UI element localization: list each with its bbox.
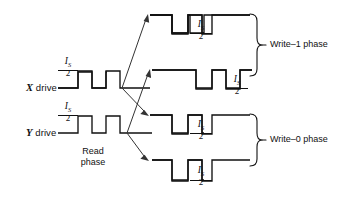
read-phase-line-1: Read xyxy=(72,146,114,157)
y-drive-label-text: drive xyxy=(33,127,57,138)
amplitude-denominator: 2 xyxy=(226,87,248,97)
write-1-phase-label: Write–1 phase xyxy=(270,40,328,49)
amplitude-denominator: 2 xyxy=(190,178,212,188)
brace-write-1 xyxy=(250,14,266,76)
write-0-phase-label: Write–0 phase xyxy=(270,135,328,144)
x-drive-label-text: drive xyxy=(33,82,57,93)
branch-arrow-x-to-write1-top xyxy=(122,14,149,88)
amplitude-label-y-read: IS 2 xyxy=(57,102,79,123)
amplitude-label-x-read: IS 2 xyxy=(57,57,79,78)
amplitude-label-y-write0: IS 2 xyxy=(190,166,212,187)
x-drive-label: X drive xyxy=(26,83,57,94)
amplitude-numerator: IS xyxy=(57,57,79,69)
amplitude-numerator: IS xyxy=(57,102,79,114)
amplitude-denominator: 2 xyxy=(57,69,79,79)
amplitude-label-y-write1: IS 2 xyxy=(226,75,248,96)
waveform-canvas xyxy=(0,0,344,198)
amplitude-denominator: 2 xyxy=(190,132,212,142)
read-phase-label: Read phase xyxy=(72,146,114,168)
read-phase-line-2: phase xyxy=(72,157,114,168)
amplitude-numerator: IS xyxy=(190,20,212,32)
waveform-figure: X drive Y drive Read phase Write–1 phase… xyxy=(0,0,344,198)
amplitude-denominator: 2 xyxy=(57,114,79,124)
branch-arrow-x-to-write0-top xyxy=(122,88,149,116)
branch-arrow-x-to-write1-bottom xyxy=(127,69,151,133)
amplitude-label-x-write0: IS 2 xyxy=(190,120,212,141)
amplitude-denominator: 2 xyxy=(190,32,212,42)
amplitude-numerator: IS xyxy=(190,120,212,132)
amplitude-numerator: IS xyxy=(226,75,248,87)
brace-write-0 xyxy=(250,114,266,166)
y-drive-label: Y drive xyxy=(26,128,56,139)
amplitude-numerator: IS xyxy=(190,166,212,178)
branch-arrow-y-to-write0-bottom xyxy=(127,133,149,161)
amplitude-label-x-write1: IS 2 xyxy=(190,20,212,41)
